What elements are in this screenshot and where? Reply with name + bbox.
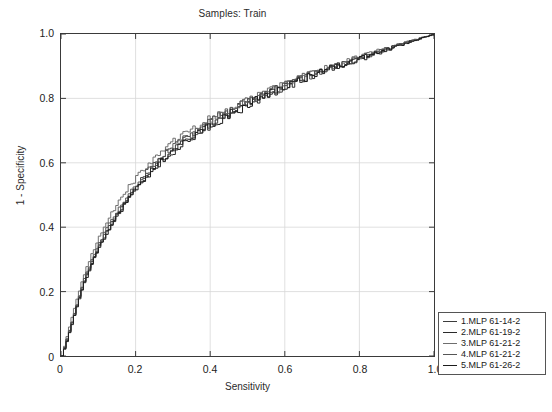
x-tick-label: 0.6 — [260, 363, 310, 375]
x-tick-label: 0.8 — [335, 363, 385, 375]
roc-curve — [61, 34, 434, 356]
legend-line-icon — [443, 343, 457, 344]
legend-item-label: 3.MLP 61-21-2 — [461, 338, 520, 349]
legend-line-icon — [443, 354, 457, 355]
y-tick-label: 0.8 — [8, 92, 54, 104]
legend-line-icon — [443, 332, 457, 333]
legend-item[interactable]: 4.MLP 61-21-2 — [441, 349, 542, 360]
legend-line-icon — [443, 365, 457, 366]
legend-item[interactable]: 3.MLP 61-21-2 — [441, 338, 542, 349]
y-tick-label: 1.0 — [8, 27, 54, 39]
y-axis-tick-labels: 00.20.40.60.81.0 — [6, 33, 54, 357]
x-axis-tick-labels: 00.20.40.60.81.0 — [60, 363, 435, 379]
plot-area — [60, 33, 435, 357]
roc-curves — [61, 34, 434, 356]
legend-item[interactable]: 2.MLP 61-19-2 — [441, 327, 542, 338]
x-axis-title: Sensitivity — [60, 381, 435, 392]
x-tick-label: 0.4 — [185, 363, 235, 375]
plot-canvas — [61, 34, 434, 356]
x-tick-label: 0 — [35, 363, 85, 375]
y-tick-label: 0 — [8, 351, 54, 363]
roc-curve — [61, 34, 434, 356]
roc-curve — [61, 34, 434, 356]
roc-curve — [61, 34, 434, 356]
legend-item-label: 2.MLP 61-19-2 — [461, 327, 520, 338]
x-tick-label: 0.2 — [110, 363, 160, 375]
legend-item-label: 4.MLP 61-21-2 — [461, 349, 520, 360]
y-tick-label: 0.2 — [8, 286, 54, 298]
roc-chart: Samples: Train 00.20.40.60.81.0 00.20.40… — [0, 0, 552, 412]
chart-title: Samples: Train — [0, 8, 465, 19]
legend-item[interactable]: 5.MLP 61-26-2 — [441, 360, 542, 371]
gridlines — [61, 34, 434, 356]
y-axis-title: 1 - Specificity — [15, 116, 26, 236]
legend-item-label: 1.MLP 61-14-2 — [461, 316, 520, 327]
roc-curve — [61, 34, 434, 356]
legend[interactable]: 1.MLP 61-14-22.MLP 61-19-23.MLP 61-21-24… — [438, 312, 546, 375]
tick-marks — [61, 34, 434, 356]
legend-item[interactable]: 1.MLP 61-14-2 — [441, 316, 542, 327]
legend-line-icon — [443, 321, 457, 322]
legend-item-label: 5.MLP 61-26-2 — [461, 360, 520, 371]
